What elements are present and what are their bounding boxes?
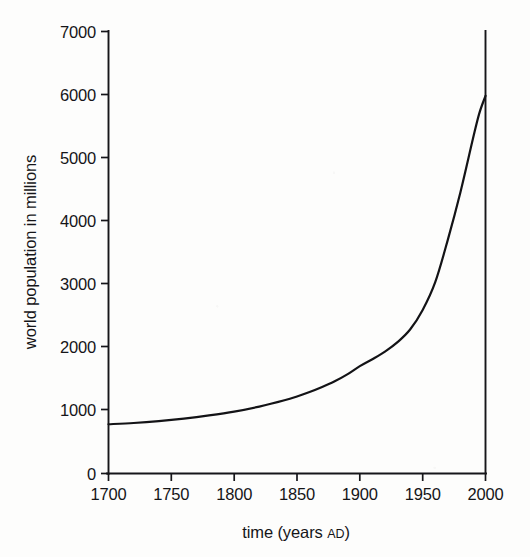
- x-tick-label-1850: 1850: [279, 485, 315, 503]
- x-tick-label-1900: 1900: [342, 485, 378, 503]
- population-curve: [109, 96, 486, 424]
- x-tick-label-1800: 1800: [216, 485, 252, 503]
- y-tick-label-6000: 6000: [60, 86, 96, 104]
- x-tick-labels: 1700 1750 1800 1850 1900 1950 2000: [91, 485, 504, 503]
- y-tick-label-5000: 5000: [60, 149, 96, 167]
- x-tick-label-2000: 2000: [468, 485, 504, 503]
- y-tick-label-7000: 7000: [60, 23, 96, 41]
- x-tick-label-1700: 1700: [91, 485, 127, 503]
- x-tick-label-1750: 1750: [153, 485, 189, 503]
- y-tick-label-0: 0: [87, 465, 96, 483]
- x-tick-label-1950: 1950: [405, 485, 441, 503]
- y-tick-label-1000: 1000: [60, 401, 96, 419]
- x-tick-marks: [109, 474, 486, 482]
- y-tick-labels: 7000 6000 5000 4000 3000 2000 1000 0: [60, 23, 96, 483]
- figure-canvas: 7000 6000 5000 4000 3000 2000 1000 0 170…: [0, 0, 530, 557]
- y-axis-title: world population in millions: [21, 155, 39, 350]
- y-tick-marks: [101, 32, 109, 474]
- y-tick-label-2000: 2000: [60, 338, 96, 356]
- x-axis-title: time (years AD): [242, 523, 350, 541]
- y-tick-label-4000: 4000: [60, 212, 96, 230]
- y-tick-label-3000: 3000: [60, 275, 96, 293]
- population-growth-chart: 7000 6000 5000 4000 3000 2000 1000 0 170…: [0, 0, 530, 557]
